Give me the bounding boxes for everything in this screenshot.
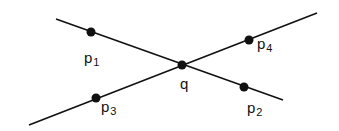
point-q-label: q	[180, 75, 188, 92]
point-p1-label: p1	[84, 49, 99, 68]
diagram-svg: p1p2p3p4q	[0, 0, 339, 131]
point-p2-dot	[240, 83, 249, 92]
point-p4-dot	[245, 36, 254, 45]
point-p1-dot	[87, 28, 96, 37]
point-p3-dot	[92, 94, 101, 103]
point-p4-label: p4	[257, 35, 272, 54]
point-q-dot	[178, 61, 187, 70]
line-p3-p4	[29, 13, 317, 125]
intersection-diagram: p1p2p3p4q	[0, 0, 339, 131]
point-p2-label: p2	[247, 99, 262, 118]
point-p3-label: p3	[101, 98, 116, 117]
